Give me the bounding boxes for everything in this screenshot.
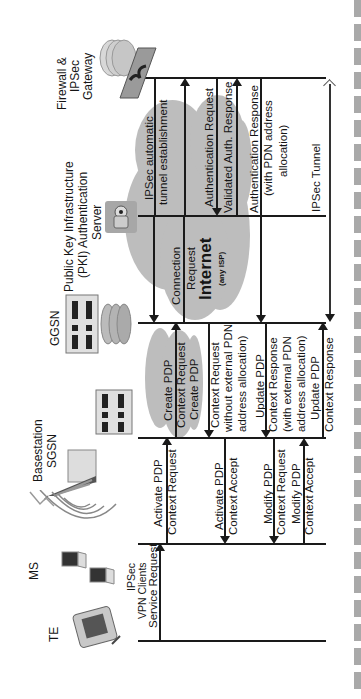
edge-block — [354, 288, 361, 305]
label-tunnel-establishment: tunnel establishment — [157, 100, 170, 205]
label-create-pdp: Create PDP — [162, 360, 175, 421]
edge-block — [354, 264, 361, 281]
label-with-external-pdn: (with external PDN — [281, 336, 294, 432]
arrow-down-icon — [204, 430, 214, 438]
label-authentication-response: Authentication Response — [248, 85, 261, 213]
lifeline-pki — [138, 215, 326, 217]
edge-block — [354, 480, 361, 497]
label-context-accept-2: Context Accept — [303, 458, 316, 535]
label-ms: MS — [28, 562, 41, 580]
label-connection: Connection — [170, 247, 183, 305]
edge-block — [354, 672, 361, 689]
edge-block — [354, 312, 361, 329]
edge-block — [354, 624, 361, 641]
arrow-down-icon — [149, 315, 159, 323]
label-update-pdp: Update PDP — [254, 354, 267, 418]
label-modify-pdp-2: Modify PDP — [290, 463, 303, 524]
label-pki-1: Public Key Infrastructure — [63, 161, 76, 292]
label-internet: Internet — [196, 238, 215, 300]
msg-ipsec-tunnel — [329, 84, 331, 314]
edge-block — [354, 360, 361, 377]
pki-server-icon — [104, 200, 138, 234]
edge-block — [354, 72, 361, 89]
ggsn-server-icon — [64, 293, 138, 357]
te-pda-icon — [72, 606, 122, 652]
edge-block — [354, 120, 361, 137]
label-validated-auth-response: Validated Auth. Response — [222, 82, 235, 214]
label-context-request-3: Context Request — [209, 342, 222, 428]
edge-block — [354, 432, 361, 449]
arrow-up-icon — [180, 78, 190, 86]
label-context-response-2: Context Response — [323, 337, 336, 432]
label-context-request-2: Context Request — [175, 342, 188, 428]
edge-block — [354, 600, 361, 617]
arrow-up-open-icon — [323, 79, 336, 92]
arrow-up-icon — [162, 437, 172, 445]
edge-block — [354, 408, 361, 425]
label-update-pdp-2: Update PDP — [309, 356, 322, 420]
edge-block — [354, 528, 361, 545]
edge-block — [354, 144, 361, 161]
edge-block — [354, 216, 361, 233]
arrow-up-icon — [299, 438, 309, 446]
edge-block — [354, 456, 361, 473]
msg-validated-auth-response — [236, 85, 238, 216]
label-pki-3: Server — [91, 205, 104, 240]
msg-tunnel-up — [184, 85, 186, 216]
label-ggsn: GGSN — [49, 311, 62, 346]
label-context-request: Context Request — [166, 449, 179, 535]
firewall-icon — [90, 30, 160, 100]
edge-block — [354, 648, 361, 665]
arrow-down-icon — [256, 315, 266, 323]
label-context-request-4: Context Request — [275, 449, 288, 535]
label-authentication-request: Authentication Request — [203, 88, 216, 207]
label-pki-2: (PKI) Authentication — [77, 172, 90, 278]
label-context-accept: Context Accept — [227, 458, 240, 535]
label-te: TE — [48, 627, 61, 642]
lifeline-te — [138, 640, 326, 642]
edge-block — [354, 336, 361, 353]
arrow-up-icon — [171, 322, 181, 330]
label-address-allocation: address allocation) — [236, 335, 249, 432]
sgsn-server-icon — [94, 388, 136, 436]
arrow-down-icon — [212, 208, 222, 216]
edge-block — [354, 576, 361, 593]
label-address-allocation-2: address allocation) — [295, 335, 308, 432]
arrow-down-icon — [269, 536, 279, 544]
label-modify-pdp: Modify PDP — [262, 463, 275, 524]
label-any-isp: (any ISP) — [215, 252, 228, 286]
label-activate-pdp-2: Activate PDP — [213, 462, 226, 530]
label-without-external-pdn: without external PDN — [222, 324, 235, 432]
label-create-pdp-2: Create PDP — [188, 359, 201, 420]
edge-block — [354, 48, 361, 65]
label-with-pdn-address: (with PDN address — [262, 100, 275, 196]
label-ipsec-tunnel: IPSec Tunnel — [310, 144, 323, 212]
label-ipsec: IPSec — [125, 563, 138, 591]
msg-connection-request — [153, 216, 155, 318]
edge-block — [354, 0, 361, 17]
label-context-response: Context Response — [267, 337, 280, 432]
edge-block — [354, 24, 361, 41]
arrow-down-icon — [325, 314, 335, 322]
edge-block — [354, 168, 361, 185]
edge-block — [354, 552, 361, 569]
arrow-up-icon — [318, 322, 328, 330]
edge-block — [354, 192, 361, 209]
label-ipsec-automatic: IPSec automatic — [143, 116, 156, 200]
arrow-down-icon — [220, 536, 230, 544]
edge-block — [354, 240, 361, 257]
edge-block — [354, 96, 361, 113]
label-activate-pdp: Activate PDP — [152, 459, 165, 527]
edge-block — [354, 384, 361, 401]
ms-laptop-icon — [60, 550, 115, 590]
edge-block — [354, 504, 361, 521]
msg-authentication-request — [216, 79, 218, 209]
label-allocation: allocation) — [277, 125, 290, 177]
